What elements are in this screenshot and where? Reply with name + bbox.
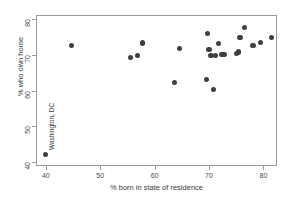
y-tick-mark: [32, 162, 36, 163]
data-point: [177, 46, 182, 51]
y-axis-title: % who own home: [16, 12, 25, 122]
x-tick-label: 40: [31, 171, 61, 180]
data-point: [250, 43, 255, 48]
data-point: [206, 47, 211, 52]
data-point: [213, 53, 218, 58]
y-tick-label: 40: [24, 162, 32, 184]
y-tick-mark: [32, 91, 36, 92]
plot-area: [36, 15, 277, 166]
washington-dc-annotation: Washington, DC: [48, 103, 55, 150]
data-points-layer: [37, 16, 276, 165]
data-point: [237, 35, 242, 40]
data-point: [135, 53, 140, 58]
data-point: [69, 43, 74, 48]
x-tick-label: 80: [248, 171, 278, 180]
data-point: [242, 25, 247, 30]
scatter-plot-figure: 4050607080 4050607080 % born in state of…: [0, 0, 292, 199]
y-tick-mark: [32, 55, 36, 56]
x-tick-mark: [263, 166, 264, 170]
y-tick-label: 50: [24, 126, 32, 148]
x-tick-label: 60: [140, 171, 170, 180]
x-axis-title: % born in state of residence: [36, 183, 277, 192]
x-tick-label: 70: [194, 171, 224, 180]
y-tick-label: 60: [24, 91, 32, 113]
data-point: [258, 40, 263, 45]
data-point: [216, 41, 221, 46]
y-tick-mark: [32, 19, 36, 20]
data-point: [128, 55, 133, 60]
y-tick-label: 70: [24, 55, 32, 77]
x-tick-mark: [209, 166, 210, 170]
data-point: [172, 80, 177, 85]
data-point: [205, 31, 210, 36]
data-point: [140, 40, 145, 45]
data-point: [204, 77, 209, 82]
y-tick-label: 80: [24, 19, 32, 41]
x-tick-mark: [46, 166, 47, 170]
data-point: [236, 49, 241, 54]
data-point: [43, 152, 48, 157]
x-tick-mark: [155, 166, 156, 170]
x-tick-mark: [100, 166, 101, 170]
x-tick-label: 50: [85, 171, 115, 180]
data-point: [269, 35, 274, 40]
data-point: [211, 87, 216, 92]
y-tick-mark: [32, 126, 36, 127]
data-point: [222, 52, 227, 57]
